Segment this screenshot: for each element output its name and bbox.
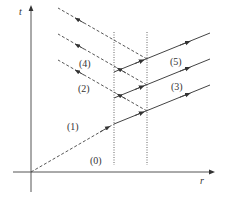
- region-label-4: (4): [79, 58, 91, 70]
- t-axis-label: t: [19, 6, 22, 17]
- r-axis-label: r: [200, 175, 204, 186]
- spacetime-diagram: t r (0) (1) (2) (3) (4) (5): [0, 0, 234, 199]
- solid-rays: [114, 33, 210, 124]
- dashed-reflected-rays: [58, 8, 147, 111]
- region-label-0: (0): [90, 155, 102, 167]
- region-label-5: (5): [170, 56, 182, 68]
- region-label-1: (1): [67, 121, 79, 133]
- region-label-3: (3): [171, 81, 183, 93]
- region-label-2: (2): [78, 83, 90, 95]
